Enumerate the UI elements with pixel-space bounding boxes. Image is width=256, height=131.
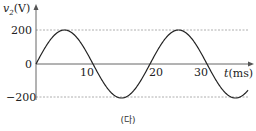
x-tick-10: 10 xyxy=(80,67,94,78)
y-tick-0: 0 xyxy=(25,59,32,70)
x-axis-label: t(ms) xyxy=(224,68,253,79)
figure-caption: (다) xyxy=(0,113,256,126)
x-tick-30: 30 xyxy=(194,67,208,78)
sine-chart xyxy=(0,0,256,131)
y-tick-neg200: −200 xyxy=(6,92,36,103)
y-tick-200: 200 xyxy=(11,25,32,36)
y-axis-label: v2(V) xyxy=(3,3,30,19)
x-tick-20: 20 xyxy=(149,67,163,78)
x-axis-arrow-icon xyxy=(248,62,254,67)
y-axis-arrow-icon xyxy=(34,4,39,10)
